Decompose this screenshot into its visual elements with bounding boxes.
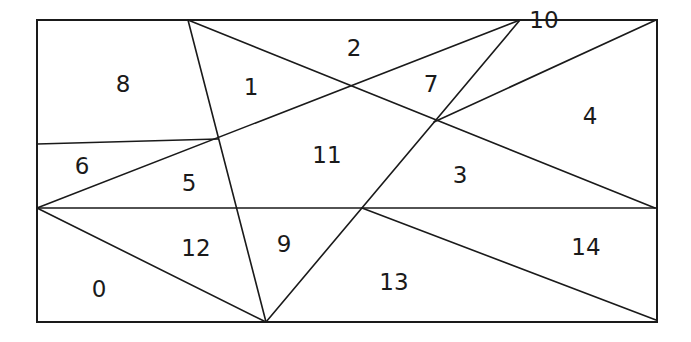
region-label-8: 8 <box>116 71 131 97</box>
region-label-1: 1 <box>244 74 259 100</box>
region-label-14: 14 <box>571 234 600 260</box>
region-label-3: 3 <box>453 162 468 188</box>
region-label-5: 5 <box>182 170 197 196</box>
region-label-12: 12 <box>181 235 210 261</box>
partition-diagram: 01234567891011121314 <box>0 0 691 342</box>
region-label-9: 9 <box>277 231 292 257</box>
region-label-6: 6 <box>75 153 90 179</box>
region-label-13: 13 <box>379 269 408 295</box>
region-label-10: 10 <box>529 7 558 33</box>
region-label-11: 11 <box>312 142 341 168</box>
region-label-2: 2 <box>347 35 362 61</box>
region-label-4: 4 <box>583 103 598 129</box>
region-label-0: 0 <box>92 276 107 302</box>
region-label-7: 7 <box>424 71 439 97</box>
